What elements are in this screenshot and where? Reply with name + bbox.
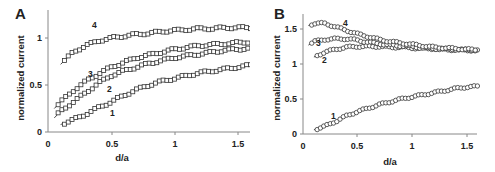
panel-b-series: 1234: [308, 18, 479, 132]
y-tick: 1.5: [284, 24, 297, 34]
panel-b-label: B: [274, 5, 285, 22]
curve-label: 4: [343, 18, 348, 28]
curve-label: 3: [316, 38, 321, 48]
y-tick: 0.5: [284, 94, 297, 104]
data-point: [475, 84, 479, 88]
panel-b-chart: B 0 0.5 1 1.5 0 0.5 1 1.5 d/a normalized…: [0, 0, 495, 172]
y-tick: 0: [292, 129, 297, 139]
x-axis-label: d/a: [383, 156, 397, 167]
x-tick: 1: [409, 141, 414, 151]
x-tick: 1.5: [461, 141, 474, 151]
panel-b-axes: [300, 14, 477, 137]
y-axis-label: normalized current: [271, 34, 282, 120]
y-tick: 1: [292, 59, 297, 69]
x-tick: 0.5: [351, 141, 364, 151]
data-point: [473, 48, 477, 52]
curve-label: 1: [331, 111, 336, 121]
series-1: 1: [314, 84, 480, 132]
x-tick: 0: [300, 141, 305, 151]
curve-label: 2: [322, 55, 327, 65]
